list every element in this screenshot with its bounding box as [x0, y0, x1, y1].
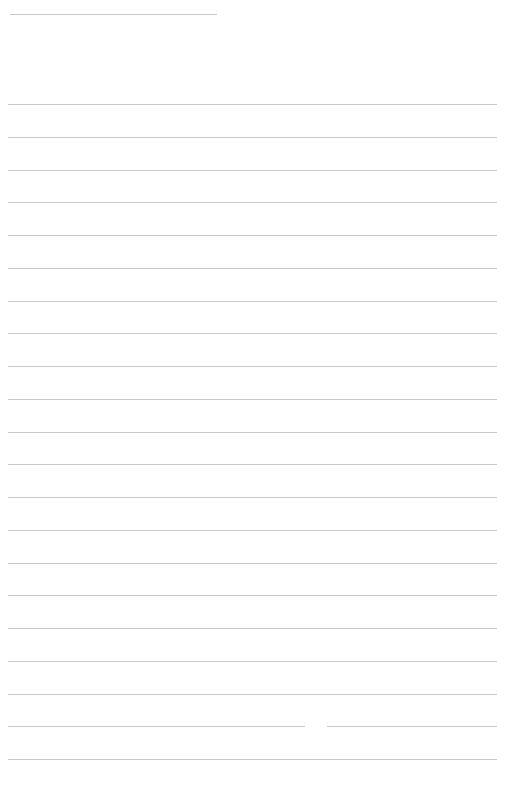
ruled-line [8, 595, 497, 596]
ruled-line [8, 563, 497, 564]
line-gap [305, 725, 327, 728]
ruled-line [8, 628, 497, 629]
ruled-line [8, 726, 497, 727]
ruled-line [8, 170, 497, 171]
ruled-line [8, 366, 497, 367]
ruled-line [8, 202, 497, 203]
ruled-line [8, 759, 497, 760]
header-line [10, 14, 217, 15]
ruled-line [8, 268, 497, 269]
ruled-line [8, 301, 497, 302]
ruled-line [8, 661, 497, 662]
ruled-line [8, 137, 497, 138]
ruled-line [8, 104, 497, 105]
ruled-line [8, 235, 497, 236]
lined-paper-page [0, 0, 517, 802]
ruled-line [8, 464, 497, 465]
ruled-line [8, 333, 497, 334]
ruled-line [8, 530, 497, 531]
ruled-line [8, 497, 497, 498]
ruled-line [8, 399, 497, 400]
ruled-line [8, 432, 497, 433]
ruled-line [8, 694, 497, 695]
